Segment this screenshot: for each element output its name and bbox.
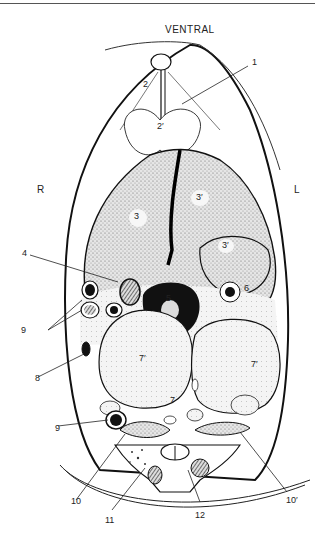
cross-section-drawing — [0, 0, 323, 539]
label-2: 2 — [143, 80, 148, 89]
label-3-prime-upper: 3′ — [196, 193, 203, 202]
label-8: 8 — [35, 374, 40, 383]
label-11: 11 — [105, 516, 114, 525]
label-3-prime-lower: 3′ — [222, 241, 229, 250]
orientation-right: R — [37, 184, 45, 195]
label-7: 7 — [170, 396, 175, 405]
label-2-prime: 2′ — [157, 122, 164, 131]
label-4: 4 — [22, 249, 27, 258]
label-3: 3 — [134, 212, 139, 221]
label-7-prime-left: 7′ — [139, 354, 146, 363]
orientation-ventral: VENTRAL — [165, 24, 215, 35]
label-1: 1 — [252, 58, 257, 67]
label-10-prime: 10′ — [286, 496, 298, 505]
label-6: 6 — [244, 284, 249, 293]
label-9-upper: 9 — [21, 326, 26, 335]
label-10: 10 — [71, 497, 81, 506]
orientation-left: L — [294, 184, 300, 195]
label-9-lower: 9 — [55, 424, 60, 433]
label-12: 12 — [195, 511, 205, 520]
label-5: 5 — [166, 294, 171, 303]
label-7-prime-right: 7′ — [251, 360, 258, 369]
